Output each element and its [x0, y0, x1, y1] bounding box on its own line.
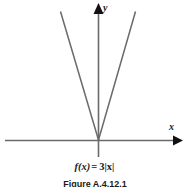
function-curve-right-branch — [99, 12, 136, 141]
figure-container: y x f(x)=3|x| Figure A.4.12.1 — [0, 0, 190, 187]
function-curve-left-branch — [61, 12, 99, 141]
graph-svg — [0, 0, 190, 160]
plot-area — [0, 0, 190, 160]
figure-caption: Figure A.4.12.1 — [0, 179, 190, 187]
x-axis-label: x — [169, 122, 174, 132]
equation-expression: 3|x| — [98, 161, 115, 172]
x-axis-arrowhead — [173, 136, 183, 146]
y-axis-arrowhead — [94, 3, 104, 14]
y-axis-label: y — [103, 3, 107, 13]
equation-caption: f(x)=3|x| — [0, 160, 190, 173]
equation-argument: (x) — [78, 161, 90, 172]
